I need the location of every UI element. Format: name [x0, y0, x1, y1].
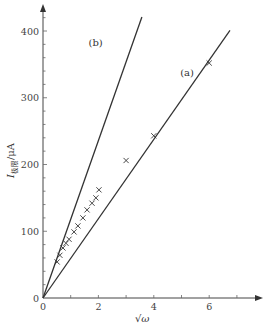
- series-labels: (a)(b): [89, 37, 194, 78]
- x-marker-icon: [96, 187, 101, 192]
- x-axis-label: √ω: [135, 313, 150, 324]
- x-tick-label: 0: [40, 301, 46, 312]
- x-axis-arrow-icon: [255, 295, 263, 301]
- fit-line: [43, 30, 230, 298]
- y-axis-arrow-icon: [40, 4, 46, 12]
- y-tick-label: 0: [33, 293, 39, 304]
- y-tick-label: 200: [21, 159, 39, 170]
- x-marker-icon: [93, 195, 98, 200]
- y-tick-label: 100: [21, 226, 39, 237]
- fit-lines: [43, 17, 230, 298]
- x-marker-icon: [84, 207, 89, 212]
- y-axis-label: I极限/μA: [5, 142, 19, 179]
- x-tick-label: 6: [206, 301, 212, 312]
- x-marker-icon: [89, 201, 94, 206]
- series-label: (a): [180, 67, 194, 78]
- y-tick-label: 400: [21, 26, 39, 37]
- series-label: (b): [89, 37, 103, 48]
- x-marker-icon: [80, 215, 85, 220]
- fit-line: [43, 17, 142, 298]
- x-tick-label: 2: [95, 301, 101, 312]
- x-marker-icon: [124, 158, 129, 163]
- axes: [40, 4, 263, 301]
- x-marker-icon: [75, 223, 80, 228]
- x-marker-icon: [63, 241, 68, 246]
- y-tick-label: 300: [21, 92, 39, 103]
- x-marker-icon: [71, 229, 76, 234]
- x-tick-label: 4: [151, 301, 157, 312]
- x-marker-icon: [66, 237, 71, 242]
- chart: 01002003004000246 (a)(b) √ω I极限/μA: [0, 0, 266, 330]
